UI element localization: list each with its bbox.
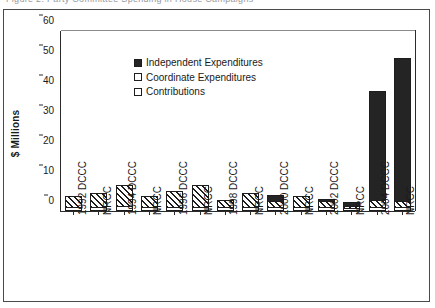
x-axis-label: 2002 DCCC (329, 161, 340, 215)
x-axis-label-slot: NRCC (136, 213, 161, 299)
x-axis-label-slot: NRCC (338, 213, 363, 299)
legend-label: Contributions (146, 86, 205, 97)
y-axis-tick-mark (44, 195, 48, 196)
legend-item[interactable]: Coordinate Expenditures (134, 72, 263, 83)
legend-swatch-coordinate (134, 73, 142, 81)
bar-slot (86, 31, 111, 211)
x-axis-label-slot: 1998 DCCC (212, 213, 237, 299)
x-axis-label-slot: 1994 DCCC (111, 213, 136, 299)
x-axis-label-slot: NRCC (288, 213, 313, 299)
x-axis-label-slot: 2002 DCCC (313, 213, 338, 299)
y-axis-tick-label: 50 (43, 45, 61, 56)
bar-slot (339, 31, 364, 211)
y-axis-tick-label: 0 (48, 195, 61, 206)
x-axis-label-slot: NRCC (186, 213, 211, 299)
y-axis-title: $ Millions (9, 78, 23, 188)
x-axis-label: 2004 DCCC (380, 161, 391, 215)
legend-item[interactable]: Independent Expenditures (134, 57, 263, 68)
x-axis-label: 1992 DCCC (77, 161, 88, 215)
y-axis-tick-label: 60 (43, 15, 61, 26)
x-axis-labels: 1992 DCCCNRCC1994 DCCCNRCC1996 DCCCNRCC1… (60, 213, 414, 299)
x-axis-label: NRCC (152, 186, 163, 215)
bar-slot (390, 31, 415, 211)
legend-label: Coordinate Expenditures (146, 72, 256, 83)
x-axis-label-slot: NRCC (237, 213, 262, 299)
y-axis-title-label: $ Millions (11, 109, 22, 157)
y-axis-tick-mark (39, 165, 43, 166)
bar-segment-independent (395, 59, 410, 202)
x-axis-label-slot: NRCC (389, 213, 414, 299)
x-axis-label: NRCC (203, 186, 214, 215)
x-axis-label: NRCC (355, 186, 366, 215)
x-axis-label: NRCC (102, 186, 113, 215)
y-axis-tick-mark (39, 45, 43, 46)
legend-swatch-independent (134, 59, 142, 67)
x-axis-label: 1998 DCCC (228, 161, 239, 215)
x-axis-label: NRCC (304, 186, 315, 215)
x-axis-label-slot: NRCC (85, 213, 110, 299)
legend-label: Independent Expenditures (146, 57, 263, 68)
bar-slot (289, 31, 314, 211)
x-axis-label-slot: 2004 DCCC (363, 213, 388, 299)
chart-figure-frame: $ Millions 0102030405060 Independent Exp… (3, 9, 430, 302)
y-axis-tick-mark (39, 135, 43, 136)
clipped-header-strip: Figure 2. Party Committee Spending in Ho… (0, 0, 435, 8)
x-axis-label: NRCC (254, 186, 265, 215)
chart-legend: Independent ExpendituresCoordinate Expen… (134, 57, 263, 97)
x-axis-label: 2000 DCCC (279, 161, 290, 215)
y-axis-tick-mark (39, 105, 43, 106)
y-axis-tick-mark (39, 15, 43, 16)
y-axis-tick-label: 20 (43, 135, 61, 146)
y-axis-tick-mark (39, 75, 43, 76)
y-axis-tick-label: 40 (43, 75, 61, 86)
x-axis-label-slot: 2000 DCCC (262, 213, 287, 299)
x-axis-label: 1994 DCCC (127, 161, 138, 215)
legend-item[interactable]: Contributions (134, 86, 263, 97)
x-axis-label: NRCC (405, 186, 416, 215)
y-axis-tick-label: 10 (43, 165, 61, 176)
x-axis-label: 1996 DCCC (178, 161, 189, 215)
y-axis-tick-label: 30 (43, 105, 61, 116)
legend-swatch-contributions (134, 88, 142, 96)
x-axis-label-slot: 1996 DCCC (161, 213, 186, 299)
clipped-title-text: Figure 2. Party Committee Spending in Ho… (6, 0, 254, 4)
x-axis-label-slot: 1992 DCCC (60, 213, 85, 299)
